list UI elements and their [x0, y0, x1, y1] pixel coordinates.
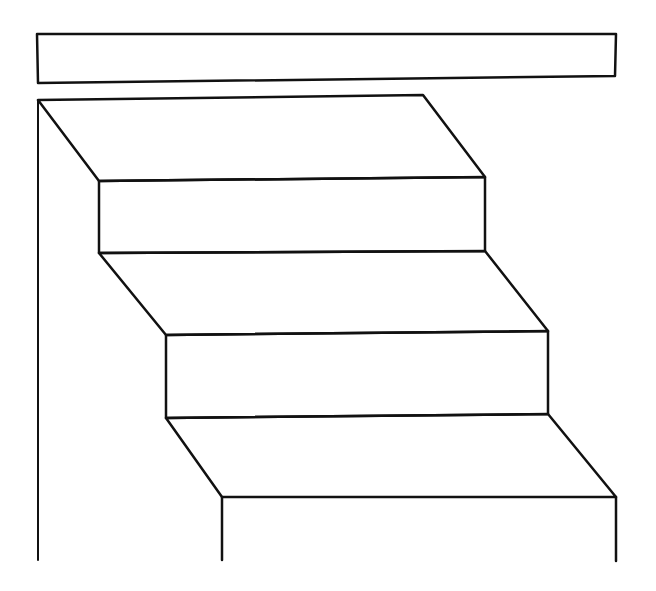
tread-2 [99, 251, 548, 335]
riser-2 [166, 331, 548, 418]
top-landing [38, 95, 485, 181]
riser-1 [99, 177, 485, 253]
ceiling-bar [37, 34, 616, 83]
staircase-drawing [0, 0, 656, 591]
tread-3 [166, 414, 616, 497]
